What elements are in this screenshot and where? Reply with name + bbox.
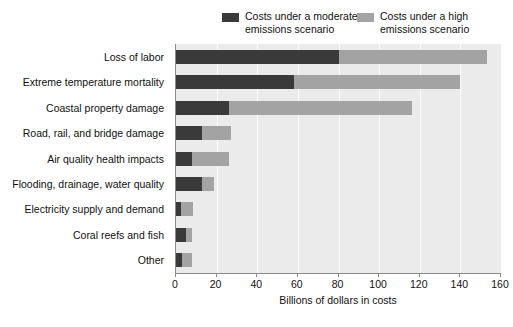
x-tick-mark <box>338 273 339 277</box>
x-tick-label: 100 <box>369 278 387 290</box>
bar-segment-moderate[interactable] <box>176 177 202 191</box>
legend-label-moderate: Costs under a moderate emissions scenari… <box>245 10 358 35</box>
bar-segment-moderate[interactable] <box>176 152 192 166</box>
bar-segment-high[interactable] <box>186 228 192 242</box>
bar-segment-high[interactable] <box>202 177 213 191</box>
x-tick-label: 40 <box>250 278 262 290</box>
x-tick-label: 140 <box>451 278 469 290</box>
x-axis-title: Billions of dollars in costs <box>175 294 501 306</box>
category-label: Coral reefs and fish <box>73 229 164 241</box>
bar-row[interactable] <box>176 202 193 216</box>
legend-swatch-high <box>357 13 374 22</box>
legend-label-high: Costs under a high emissions scenario <box>380 10 469 35</box>
x-tick-label: 80 <box>332 278 344 290</box>
category-label: Electricity supply and demand <box>25 203 165 215</box>
bar-segment-moderate[interactable] <box>176 101 229 115</box>
x-tick-mark <box>419 273 420 277</box>
x-tick-mark <box>459 273 460 277</box>
x-tick-mark <box>500 273 501 277</box>
bar-segment-moderate[interactable] <box>176 228 186 242</box>
x-tick-label: 20 <box>210 278 222 290</box>
bar-segment-high[interactable] <box>229 101 412 115</box>
category-label: Extreme temperature mortality <box>23 76 164 88</box>
legend-entry-high: Costs under a high emissions scenario <box>357 10 469 35</box>
bar-row[interactable] <box>176 152 229 166</box>
bar-row[interactable] <box>176 253 192 267</box>
bar-row[interactable] <box>176 126 231 140</box>
bar-row[interactable] <box>176 177 214 191</box>
category-label: Coastal property damage <box>46 102 164 114</box>
category-label: Flooding, drainage, water quality <box>12 178 164 190</box>
x-tick-mark <box>175 273 176 277</box>
bar-segment-high[interactable] <box>182 253 192 267</box>
bar-row[interactable] <box>176 101 412 115</box>
x-tick-label: 60 <box>291 278 303 290</box>
x-tick-mark <box>256 273 257 277</box>
bar-row[interactable] <box>176 228 192 242</box>
bar-segment-moderate[interactable] <box>176 126 202 140</box>
category-axis-labels: Loss of laborExtreme temperature mortali… <box>0 44 170 273</box>
x-tick-label: 160 <box>491 278 509 290</box>
bar-row[interactable] <box>176 75 460 89</box>
plot-area <box>175 44 501 273</box>
legend-swatch-moderate <box>222 13 239 22</box>
x-tick-mark <box>216 273 217 277</box>
category-label: Loss of labor <box>104 51 164 63</box>
x-axis-ticks: 020406080100120140160 <box>175 273 501 293</box>
chart-legend: Costs under a moderate emissions scenari… <box>0 10 513 42</box>
bar-segment-high[interactable] <box>294 75 461 89</box>
bar-series-container <box>176 44 501 273</box>
bar-segment-high[interactable] <box>202 126 230 140</box>
bar-segment-moderate[interactable] <box>176 50 339 64</box>
bar-segment-high[interactable] <box>181 202 193 216</box>
legend-entry-moderate: Costs under a moderate emissions scenari… <box>222 10 358 35</box>
category-label: Road, rail, and bridge damage <box>23 127 164 139</box>
x-tick-label: 0 <box>172 278 178 290</box>
category-label: Other <box>138 254 164 266</box>
bar-segment-high[interactable] <box>339 50 487 64</box>
bar-segment-high[interactable] <box>192 152 229 166</box>
bar-segment-moderate[interactable] <box>176 75 294 89</box>
x-tick-mark <box>297 273 298 277</box>
x-tick-label: 120 <box>410 278 428 290</box>
gridline <box>501 44 502 273</box>
category-label: Air quality health impacts <box>47 153 164 165</box>
bar-row[interactable] <box>176 50 487 64</box>
x-tick-mark <box>378 273 379 277</box>
